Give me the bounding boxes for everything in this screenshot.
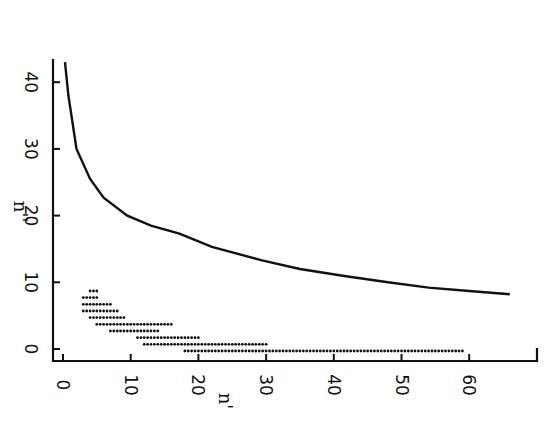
data-dot	[112, 316, 115, 319]
data-dot	[278, 350, 281, 353]
x-tick-label: 50	[392, 374, 412, 396]
axis-lines	[53, 60, 537, 361]
data-dot	[136, 323, 139, 326]
data-dot	[163, 323, 166, 326]
y-tick-label: 40	[21, 71, 41, 93]
data-dot	[92, 290, 95, 293]
data-dot	[211, 350, 214, 353]
data-dot	[95, 310, 98, 313]
data-dot	[173, 343, 176, 346]
data-dot	[116, 323, 119, 326]
data-dot	[112, 330, 115, 333]
data-dot	[92, 310, 95, 313]
data-dot	[153, 330, 156, 333]
data-dot	[106, 310, 109, 313]
data-dot	[261, 343, 264, 346]
data-dot	[431, 350, 434, 353]
data-dot	[360, 350, 363, 353]
data-dot	[89, 296, 92, 299]
data-dot	[207, 350, 210, 353]
data-dot	[184, 336, 187, 339]
data-dot	[119, 330, 122, 333]
data-dot	[146, 330, 149, 333]
data-dot	[116, 310, 119, 313]
data-dot	[353, 350, 356, 353]
data-dot	[109, 330, 112, 333]
data-dot	[221, 343, 224, 346]
data-dot	[322, 350, 325, 353]
data-dot	[258, 343, 261, 346]
data-dot	[126, 323, 129, 326]
data-dot	[136, 330, 139, 333]
data-dot	[197, 350, 200, 353]
data-dot	[217, 343, 220, 346]
data-dot	[173, 336, 176, 339]
data-dot	[200, 350, 203, 353]
data-dot	[99, 316, 102, 319]
data-dot	[89, 290, 92, 293]
data-dot	[170, 323, 173, 326]
data-dot	[417, 350, 420, 353]
data-dot	[190, 343, 193, 346]
data-dot	[126, 330, 129, 333]
data-dot	[140, 336, 143, 339]
data-dot	[106, 303, 109, 306]
data-dot	[89, 310, 92, 313]
data-dot	[255, 350, 258, 353]
data-dot	[190, 336, 193, 339]
data-dot	[312, 350, 315, 353]
data-dot	[228, 343, 231, 346]
data-dot	[224, 350, 227, 353]
data-dot	[106, 316, 109, 319]
x-axis-label: n'	[215, 393, 236, 410]
data-dot	[89, 303, 92, 306]
data-dot	[397, 350, 400, 353]
data-dot	[167, 343, 170, 346]
data-dot	[207, 343, 210, 346]
data-dot	[146, 343, 149, 346]
data-dot	[268, 350, 271, 353]
data-dot	[112, 310, 115, 313]
data-dot	[194, 336, 197, 339]
data-dot	[251, 350, 254, 353]
data-dot	[363, 350, 366, 353]
dotted-region	[82, 290, 464, 353]
data-dot	[116, 316, 119, 319]
data-dot	[190, 350, 193, 353]
data-dot	[373, 350, 376, 353]
data-dot	[123, 316, 126, 319]
data-dot	[437, 350, 440, 353]
data-dot	[295, 350, 298, 353]
data-dot	[180, 343, 183, 346]
data-dot	[241, 350, 244, 353]
data-dot	[383, 350, 386, 353]
data-dot	[140, 330, 143, 333]
data-dot	[214, 350, 217, 353]
data-dot	[119, 323, 122, 326]
y-tick-label: 30	[21, 138, 41, 160]
data-dot	[153, 343, 156, 346]
x-tick-label: 20	[188, 374, 208, 396]
data-dot	[102, 316, 105, 319]
data-dot	[326, 350, 329, 353]
data-dot	[248, 343, 251, 346]
data-dot	[102, 303, 105, 306]
data-dot	[92, 303, 95, 306]
data-dot	[305, 350, 308, 353]
data-dot	[258, 350, 261, 353]
data-dot	[112, 323, 115, 326]
data-dot	[140, 323, 143, 326]
data-dot	[349, 350, 352, 353]
data-dot	[146, 323, 149, 326]
data-dot	[143, 323, 146, 326]
data-dot	[400, 350, 403, 353]
data-dot	[92, 296, 95, 299]
data-dot	[82, 303, 85, 306]
data-dot	[420, 350, 423, 353]
data-dot	[95, 303, 98, 306]
data-dot	[275, 350, 278, 353]
data-dot	[163, 343, 166, 346]
data-dot	[376, 350, 379, 353]
data-dot	[427, 350, 430, 353]
data-dot	[231, 350, 234, 353]
